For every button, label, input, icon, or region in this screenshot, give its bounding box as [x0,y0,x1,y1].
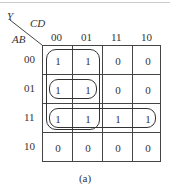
cell-10-01: 0 [73,133,103,162]
col-label-11: 11 [111,31,122,43]
group-loop-row-11 [49,108,156,128]
cell-01-10: 0 [133,75,163,104]
cell-10-11: 0 [103,133,133,162]
col-var-label: CD [30,17,45,29]
row-var-label: AB [12,33,25,45]
col-label-01: 01 [81,31,92,43]
figure-caption: (a) [0,172,170,184]
cell-10-10: 0 [133,133,163,162]
group-loop-row-01 [49,79,97,99]
row-label-00: 00 [24,53,35,65]
cell-00-11: 0 [103,46,133,75]
col-label-00: 00 [51,31,62,43]
output-label: Y [7,10,13,22]
row-label-10: 10 [24,140,35,152]
row-label-01: 01 [24,82,35,94]
cell-10-00: 0 [43,133,73,162]
cell-01-11: 0 [103,75,133,104]
karnaugh-map-grid: 1 1 0 0 1 1 0 0 1 1 1 1 0 0 0 0 [42,45,161,162]
col-label-10: 10 [141,31,152,43]
row-label-11: 11 [24,111,35,123]
cell-00-10: 0 [133,46,163,75]
